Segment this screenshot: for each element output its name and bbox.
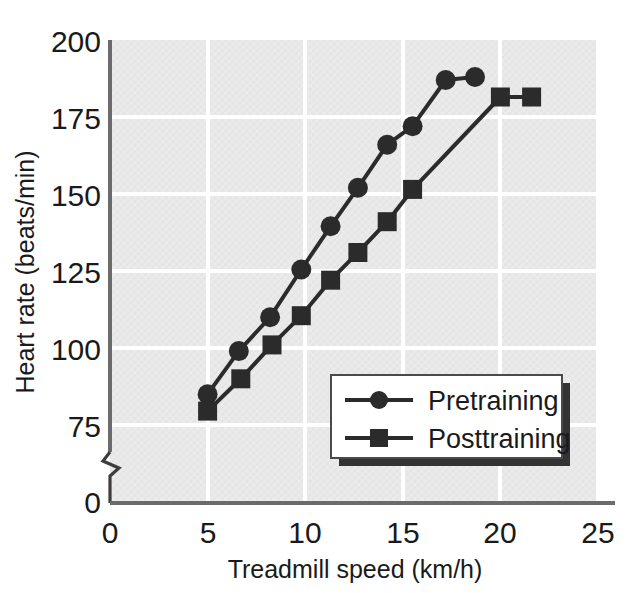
chart-figure: 200 175 150 125 100 75 0 0 5 10 15 20 25… [0,0,626,593]
square-data-point [198,402,217,421]
x-tick-label: 15 [386,516,419,549]
circle-data-point [198,384,218,404]
y-tick-label: 175 [51,102,101,135]
y-tick-label: 200 [51,25,101,58]
y-tick-labels: 200 175 150 125 100 75 0 [51,25,101,519]
x-tick-label: 0 [102,516,119,549]
circle-data-point [403,116,423,136]
x-tick-label: 5 [200,516,217,549]
x-tick-label: 20 [483,516,516,549]
square-marker-icon [370,429,388,447]
square-data-point [231,369,250,388]
square-data-point [263,335,282,354]
legend: Pretraining Posttraining [331,375,571,466]
x-axis-title: Treadmill speed (km/h) [228,555,483,583]
x-tick-labels: 0 5 10 15 20 25 [102,516,615,549]
circle-data-point [436,70,456,90]
square-data-point [292,306,311,325]
legend-label: Posttraining [428,424,571,454]
y-tick-label: 150 [51,179,101,212]
circle-data-point [348,178,368,198]
square-data-point [348,243,367,262]
square-data-point [522,88,541,107]
circle-data-point [321,216,341,236]
y-tick-label: 100 [51,333,101,366]
y-tick-label: 0 [84,486,101,519]
circle-data-point [291,260,311,280]
y-axis-title: Heart rate (beats/min) [11,150,39,393]
circle-data-point [465,67,485,87]
legend-label: Pretraining [428,386,559,416]
circle-data-point [260,307,280,327]
circle-data-point [377,135,397,155]
y-tick-label: 75 [68,410,101,443]
heart-rate-vs-treadmill-speed-chart: 200 175 150 125 100 75 0 0 5 10 15 20 25… [0,0,626,593]
circle-data-point [229,341,249,361]
square-data-point [378,212,397,231]
y-tick-label: 125 [51,256,101,289]
square-data-point [321,271,340,290]
x-tick-label: 10 [288,516,321,549]
x-tick-label: 25 [581,516,614,549]
square-data-point [491,88,510,107]
circle-marker-icon [370,391,388,409]
square-data-point [403,180,422,199]
